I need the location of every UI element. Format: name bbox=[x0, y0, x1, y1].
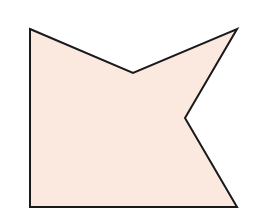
diagram-canvas bbox=[0, 0, 257, 219]
concave-polygon-shape bbox=[30, 29, 237, 207]
polygon-diagram bbox=[0, 0, 257, 219]
